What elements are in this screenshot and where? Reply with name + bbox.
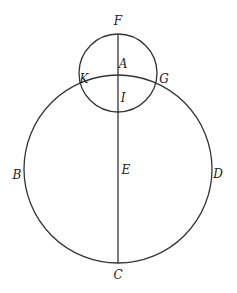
label-I: I xyxy=(121,92,126,104)
label-F: F xyxy=(114,15,122,27)
label-K: K xyxy=(80,73,89,85)
label-C: C xyxy=(113,269,122,281)
label-A: A xyxy=(119,58,128,70)
diagram-canvas xyxy=(0,0,237,293)
label-E: E xyxy=(122,164,131,176)
label-B: B xyxy=(13,169,22,181)
label-D: D xyxy=(213,168,223,180)
label-G: G xyxy=(159,73,169,85)
